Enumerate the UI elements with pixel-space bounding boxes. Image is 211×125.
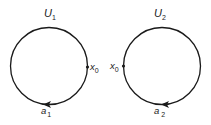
- basepoint-dot: [122, 64, 125, 67]
- loop-title: U1: [44, 7, 56, 21]
- diagram-canvas: U1 x0 a1 U2 x0 a2: [0, 0, 211, 125]
- basepoint-dot: [86, 65, 89, 68]
- loop-circle: [124, 28, 201, 105]
- loop-title: U2: [154, 7, 166, 21]
- path-label: a2: [154, 105, 165, 118]
- loop-u1: U1 x0 a1: [11, 7, 99, 118]
- loop-circle: [11, 28, 88, 105]
- basepoint-label: x0: [109, 60, 119, 73]
- basepoint-label: x0: [89, 61, 99, 74]
- loop-u2: U2 x0 a2: [109, 7, 201, 118]
